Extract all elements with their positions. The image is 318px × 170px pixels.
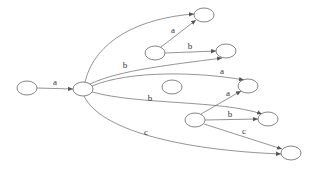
edge-label: c (144, 127, 148, 137)
state-node-n9 (281, 146, 301, 160)
edge-label: a (226, 88, 230, 98)
state-node-n4 (216, 44, 236, 58)
edge-n1-n9 (84, 96, 281, 154)
state-node-n3 (145, 46, 165, 60)
nodes-group (17, 8, 301, 160)
state-node-n7 (185, 113, 205, 127)
diagram-svg: ababcababc (0, 0, 318, 170)
state-node-n6 (238, 79, 258, 93)
edge-label: a (53, 77, 57, 87)
state-node-n0 (17, 81, 37, 95)
state-node-n2 (194, 8, 214, 22)
edge-label: a (220, 66, 224, 76)
edge-label: c (242, 126, 246, 136)
edge-label: b (228, 109, 233, 119)
edge-n3-n4 (165, 51, 216, 53)
edge-n7-n8 (205, 119, 258, 120)
state-diagram: ababcababc (0, 0, 318, 170)
state-node-n1 (73, 82, 93, 96)
edge-label: a (171, 25, 175, 35)
edge-label: b (188, 41, 193, 51)
edge-label: b (123, 60, 128, 70)
edge-n1-n8 (92, 92, 262, 114)
edge-n0-n1 (37, 88, 73, 89)
edge-label: b (148, 93, 153, 103)
state-node-n8 (258, 112, 278, 126)
edge-n7-n6 (201, 91, 241, 114)
edge-n1-n2 (85, 14, 194, 82)
state-node-n5 (162, 80, 182, 94)
